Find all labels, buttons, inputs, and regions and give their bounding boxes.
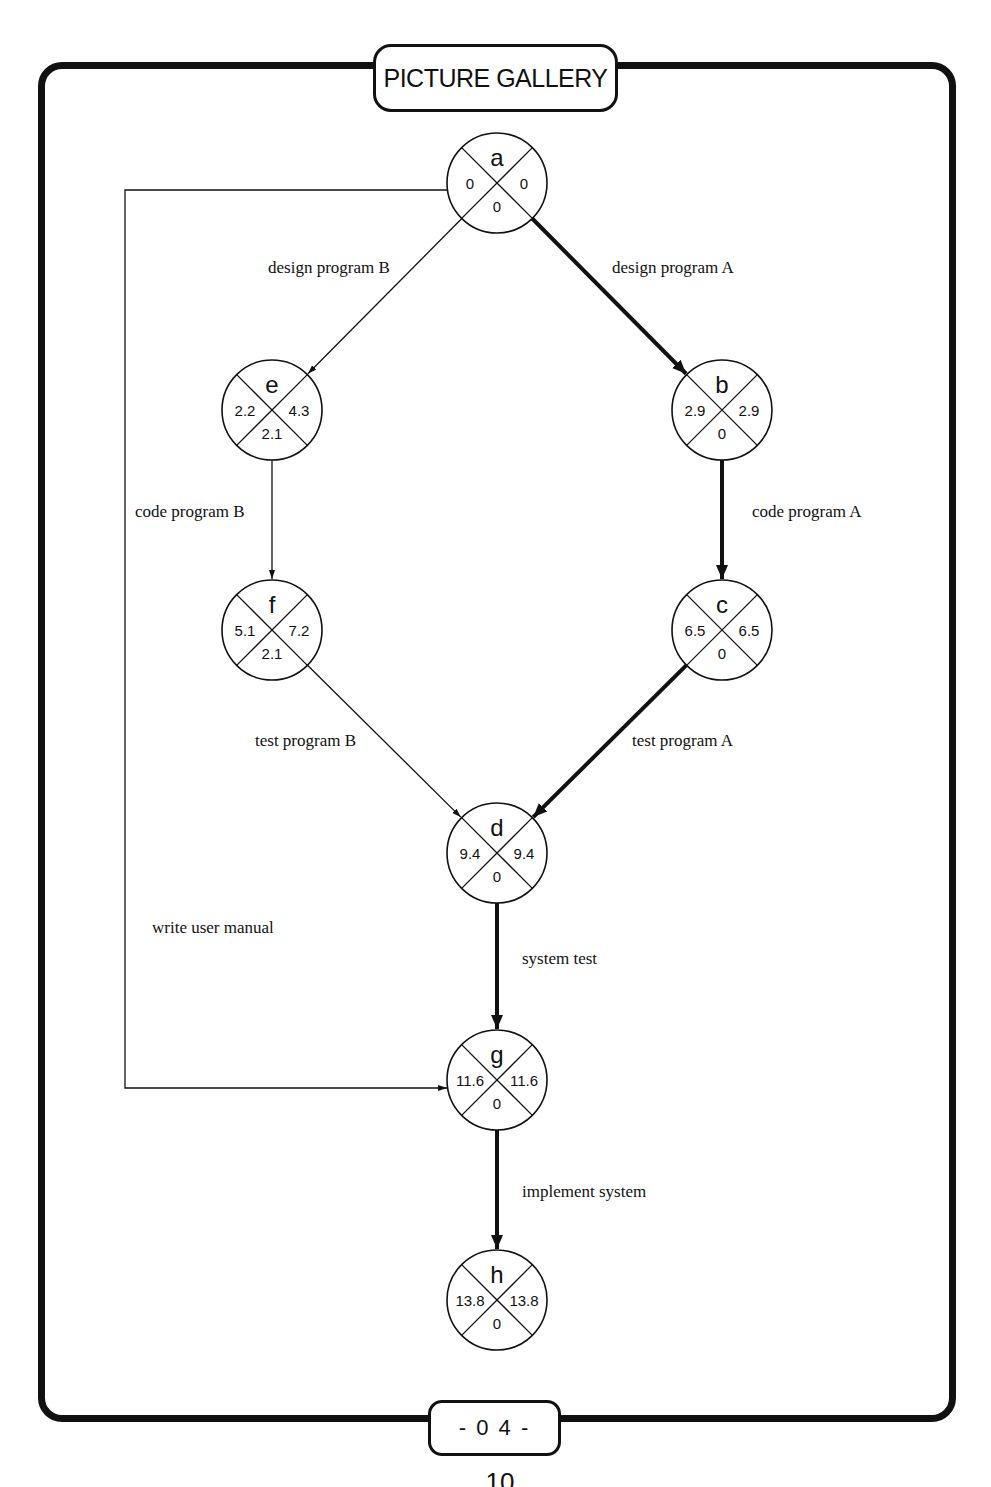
- node-c: c6.56.50: [672, 580, 772, 680]
- page-number-badge: - 0 4 -: [428, 1400, 561, 1456]
- edge-label-a-b: design program A: [612, 258, 735, 277]
- edges-layer: [125, 190, 722, 1249]
- node-latest-time: 0: [520, 175, 528, 192]
- node-letter: h: [490, 1261, 503, 1288]
- edge-label-a-e: design program B: [268, 258, 390, 277]
- node-letter: b: [715, 371, 728, 398]
- node-latest-time: 9.4: [514, 845, 535, 862]
- node-h: h13.813.80: [447, 1250, 547, 1350]
- node-earliest-time: 13.8: [455, 1292, 484, 1309]
- node-letter: a: [490, 144, 504, 171]
- edge-label-f-d: test program B: [255, 731, 356, 750]
- node-latest-time: 2.9: [739, 402, 760, 419]
- node-slack: 0: [493, 198, 501, 215]
- node-letter: c: [716, 591, 728, 618]
- node-latest-time: 6.5: [739, 622, 760, 639]
- node-latest-time: 11.6: [510, 1072, 538, 1089]
- node-slack: 0: [718, 425, 726, 442]
- node-letter: e: [265, 371, 278, 398]
- edge-label-g-h: implement system: [522, 1182, 646, 1201]
- node-slack: 0: [493, 1095, 501, 1112]
- picture-gallery-page: design program Bdesign program Acode pro…: [0, 0, 991, 1487]
- node-slack: 2.1: [262, 425, 283, 442]
- node-slack: 0: [493, 1315, 501, 1332]
- node-earliest-time: 5.1: [235, 622, 256, 639]
- node-earliest-time: 6.5: [685, 622, 706, 639]
- edge-label-a-g: write user manual: [152, 918, 274, 937]
- page-title: PICTURE GALLERY: [373, 44, 618, 112]
- node-f: f5.17.22.1: [222, 580, 322, 680]
- node-letter: g: [490, 1041, 503, 1068]
- edge-a-b: [532, 219, 686, 374]
- edge-a-e: [308, 219, 462, 374]
- node-latest-time: 4.3: [289, 402, 310, 419]
- node-latest-time: 13.8: [509, 1292, 538, 1309]
- network-diagram: design program Bdesign program Acode pro…: [0, 0, 991, 1487]
- node-earliest-time: 2.2: [235, 402, 256, 419]
- page-number-partial: 10: [470, 1472, 530, 1487]
- node-earliest-time: 0: [466, 175, 474, 192]
- edge-label-d-g: system test: [522, 949, 597, 968]
- node-latest-time: 7.2: [289, 622, 310, 639]
- node-a: a000: [447, 133, 547, 233]
- node-e: e2.24.32.1: [222, 360, 322, 460]
- node-earliest-time: 9.4: [460, 845, 481, 862]
- node-letter: d: [490, 814, 503, 841]
- node-earliest-time: 2.9: [685, 402, 706, 419]
- edge-label-e-f: code program B: [135, 502, 245, 521]
- node-earliest-time: 11.6: [456, 1072, 484, 1089]
- node-g: g11.611.60: [447, 1030, 547, 1130]
- node-slack: 0: [493, 868, 501, 885]
- node-b: b2.92.90: [672, 360, 772, 460]
- edge-label-b-c: code program A: [752, 502, 862, 521]
- node-letter: f: [269, 591, 276, 618]
- edge-label-c-d: test program A: [632, 731, 734, 750]
- node-slack: 2.1: [262, 645, 283, 662]
- node-slack: 0: [718, 645, 726, 662]
- node-d: d9.49.40: [447, 803, 547, 903]
